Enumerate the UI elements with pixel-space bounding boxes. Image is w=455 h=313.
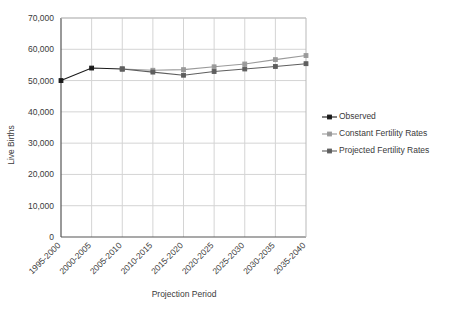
x-axis-title: Projection Period xyxy=(152,289,217,299)
legend-item: Observed xyxy=(322,111,376,121)
series-marker xyxy=(304,54,308,58)
x-axis-tick-labels: 1995-20002000-20052005-20102010-20152015… xyxy=(27,240,308,276)
series-marker xyxy=(243,67,247,71)
series-marker xyxy=(120,67,124,71)
legend-marker-swatch xyxy=(328,149,332,153)
series-marker xyxy=(243,62,247,66)
y-axis-tick-label: 0 xyxy=(49,232,54,242)
x-axis-tick-label: 2000-2005 xyxy=(57,240,93,276)
legend-item-label: Constant Fertility Rates xyxy=(339,128,427,138)
x-axis-tick-label: 2025-2030 xyxy=(210,240,246,276)
legend-marker-swatch xyxy=(328,132,332,136)
y-axis-tick-label: 30,000 xyxy=(28,138,54,148)
series-marker xyxy=(59,79,63,83)
x-axis-tick-label: 2020-2025 xyxy=(180,240,216,276)
series-marker xyxy=(151,70,155,74)
x-axis-tick-label: 2030-2035 xyxy=(241,240,277,276)
y-axis-tick-label: 70,000 xyxy=(28,13,54,23)
x-axis-tick-label: 2015-2020 xyxy=(149,240,185,276)
live-births-line-chart: 010,00020,00030,00040,00050,00060,00070,… xyxy=(0,0,455,313)
series-marker xyxy=(90,66,94,70)
legend-item-label: Observed xyxy=(339,111,376,121)
x-axis-tick-label: 2035-2040 xyxy=(272,240,308,276)
series-marker xyxy=(212,65,216,69)
x-axis-tick-label: 1995-2000 xyxy=(27,240,63,276)
series-marker xyxy=(273,58,277,62)
series-marker xyxy=(304,62,308,66)
series-marker xyxy=(212,70,216,74)
legend-item: Constant Fertility Rates xyxy=(322,128,427,138)
series-marker xyxy=(273,65,277,69)
y-axis-tick-label: 40,000 xyxy=(28,107,54,117)
y-axis-title: Live Births xyxy=(6,125,16,165)
chart-legend: ObservedConstant Fertility RatesProjecte… xyxy=(322,111,429,155)
legend-item-label: Projected Fertility Rates xyxy=(339,145,429,155)
legend-marker-swatch xyxy=(328,115,332,119)
y-axis-tick-label: 20,000 xyxy=(28,169,54,179)
series-marker xyxy=(182,73,186,77)
x-axis-tick-label: 2005-2010 xyxy=(88,240,124,276)
y-axis-tick-label: 60,000 xyxy=(28,44,54,54)
y-axis-tick-label: 10,000 xyxy=(28,201,54,211)
legend-item: Projected Fertility Rates xyxy=(322,145,429,155)
chart-container: 010,00020,00030,00040,00050,00060,00070,… xyxy=(0,0,455,313)
y-axis-tick-labels: 010,00020,00030,00040,00050,00060,00070,… xyxy=(28,13,54,242)
x-axis-tick-label: 2010-2015 xyxy=(118,240,154,276)
series-marker xyxy=(182,68,186,72)
y-axis-tick-label: 50,000 xyxy=(28,76,54,86)
